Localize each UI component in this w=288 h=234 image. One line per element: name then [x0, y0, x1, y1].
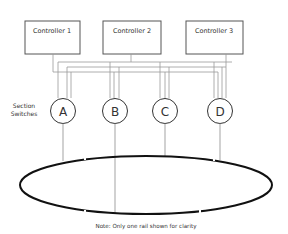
switch-c: C	[153, 99, 178, 124]
controller-2: Controller 2	[103, 21, 161, 54]
switch-d: D	[208, 99, 233, 124]
rail-gap	[213, 155, 215, 161]
switch-b: B	[103, 99, 128, 124]
switch-c-label: C	[161, 105, 169, 119]
section-switches-label-line2: Switches	[11, 110, 38, 117]
switch-a-label: A	[59, 105, 68, 119]
switch-b-label: B	[111, 105, 119, 119]
rail	[20, 154, 272, 216]
controller-3-label: Controller 3	[195, 27, 233, 35]
section-switches-label-line1: Section	[13, 102, 35, 109]
rail-gap	[199, 210, 201, 216]
rail-feeders	[63, 124, 220, 214]
rail-gap	[84, 154, 86, 160]
controller-2-label: Controller 2	[113, 27, 151, 35]
switch-d-label: D	[215, 105, 224, 119]
rail-gap	[84, 210, 86, 216]
switch-a: A	[51, 99, 76, 124]
bus-wiring	[53, 54, 232, 98]
controller-3: Controller 3	[186, 21, 243, 54]
controller-1: Controller 1	[25, 21, 80, 54]
wiring-diagram: Controller 1 Controller 2 Controller 3 S…	[0, 0, 288, 234]
clarity-note: Note: Only one rail shown for clarity	[96, 223, 198, 230]
controller-1-label: Controller 1	[33, 27, 71, 35]
